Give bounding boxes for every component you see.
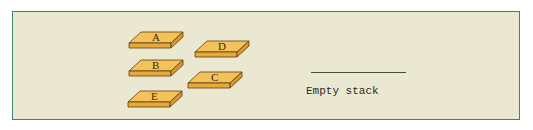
- block-d: D: [195, 40, 249, 57]
- blocks-area: A D B C E: [0, 0, 533, 130]
- block-label: B: [152, 59, 159, 71]
- block-c: C: [188, 71, 242, 88]
- block-label: E: [151, 90, 158, 102]
- block-b: B: [129, 59, 183, 76]
- block-label: A: [152, 31, 160, 43]
- block-a: A: [129, 31, 183, 48]
- block-e: E: [128, 90, 182, 107]
- stack-base-line: [311, 72, 406, 73]
- stack-label: Empty stack: [306, 85, 379, 97]
- block-label: C: [211, 71, 218, 83]
- block-label: D: [218, 40, 226, 52]
